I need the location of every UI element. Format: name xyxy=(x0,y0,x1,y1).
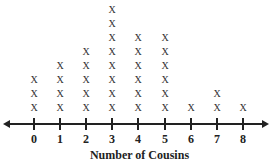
x-mark: X xyxy=(54,75,66,85)
axis-tick xyxy=(85,118,87,130)
x-mark: X xyxy=(211,89,223,99)
x-mark: X xyxy=(132,89,144,99)
x-mark: X xyxy=(28,89,40,99)
x-mark: X xyxy=(80,89,92,99)
x-mark: X xyxy=(106,103,118,113)
axis-tick xyxy=(137,118,139,130)
x-mark: X xyxy=(132,61,144,71)
x-mark: X xyxy=(159,75,171,85)
x-axis-title: Number of Cousins xyxy=(0,148,271,162)
tick-label: 2 xyxy=(78,132,94,147)
x-mark: X xyxy=(106,61,118,71)
axis-arrow-right-icon xyxy=(262,120,269,128)
x-mark: X xyxy=(159,33,171,43)
axis-tick xyxy=(190,118,192,130)
tick-label: 5 xyxy=(157,132,173,147)
axis-tick xyxy=(216,118,218,130)
tick-label: 3 xyxy=(104,132,120,147)
x-mark: X xyxy=(106,89,118,99)
axis-tick xyxy=(111,118,113,130)
x-mark: X xyxy=(185,103,197,113)
x-mark: X xyxy=(159,89,171,99)
x-mark: X xyxy=(237,103,249,113)
tick-label: 6 xyxy=(183,132,199,147)
x-mark: X xyxy=(159,61,171,71)
tick-label: 4 xyxy=(130,132,146,147)
x-mark: X xyxy=(80,61,92,71)
x-mark: X xyxy=(28,103,40,113)
x-mark: X xyxy=(106,19,118,29)
x-mark: X xyxy=(28,75,40,85)
x-mark: X xyxy=(159,47,171,57)
x-mark: X xyxy=(54,61,66,71)
axis-tick xyxy=(59,118,61,130)
tick-label: 7 xyxy=(209,132,225,147)
axis-tick xyxy=(33,118,35,130)
x-mark: X xyxy=(80,75,92,85)
tick-label: 1 xyxy=(52,132,68,147)
x-mark: X xyxy=(80,47,92,57)
x-mark: X xyxy=(80,103,92,113)
x-mark: X xyxy=(106,5,118,15)
x-mark: X xyxy=(132,75,144,85)
x-mark: X xyxy=(211,103,223,113)
x-mark: X xyxy=(106,47,118,57)
axis-tick xyxy=(164,118,166,130)
x-mark: X xyxy=(132,47,144,57)
x-mark: X xyxy=(159,103,171,113)
x-mark: X xyxy=(132,103,144,113)
x-mark: X xyxy=(54,89,66,99)
x-mark: X xyxy=(132,33,144,43)
number-line xyxy=(8,123,263,125)
x-mark: X xyxy=(106,75,118,85)
axis-tick xyxy=(242,118,244,130)
tick-label: 8 xyxy=(235,132,251,147)
x-mark: X xyxy=(106,33,118,43)
tick-label: 0 xyxy=(26,132,42,147)
x-mark: X xyxy=(54,103,66,113)
